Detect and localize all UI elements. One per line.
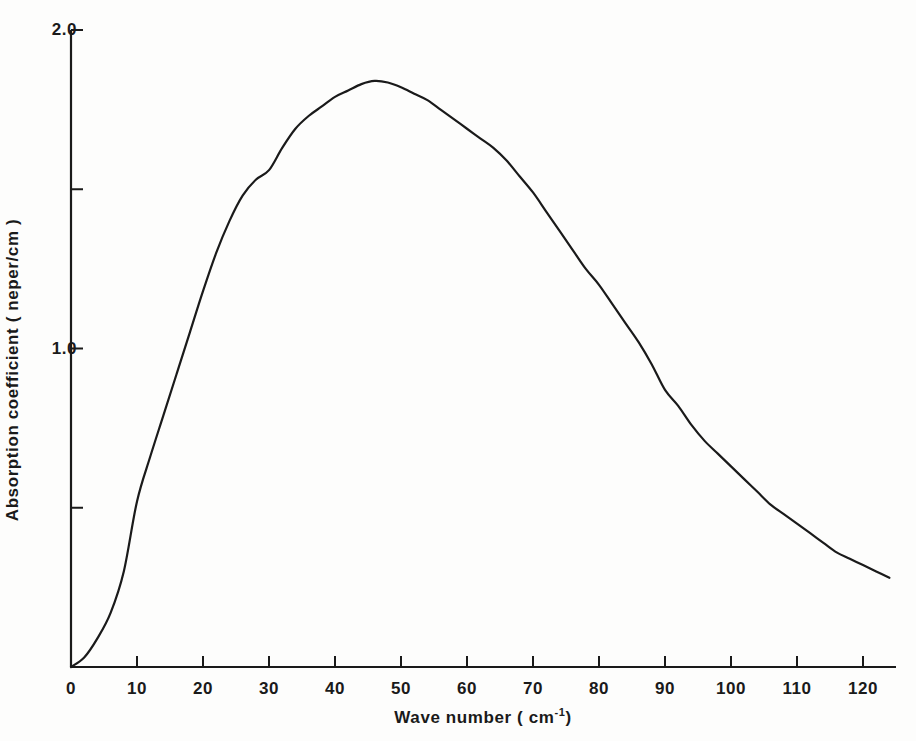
x-tick-label: 60 [457, 679, 477, 699]
absorption-spectrum-figure: 0102030405060708090100110120 1.02.0 Wave… [0, 0, 916, 741]
x-tick-label: 0 [66, 679, 76, 699]
y-axis-ticks [71, 30, 83, 508]
y-tick-label: 2.0 [52, 20, 77, 40]
x-axis-title: Wave number ( cm-1) [394, 706, 571, 728]
x-tick-label: 50 [391, 679, 411, 699]
x-tick-label: 100 [716, 679, 746, 699]
x-axis-title-superscript: -1 [554, 706, 565, 718]
x-tick-label: 10 [127, 679, 147, 699]
absorption-curve [71, 81, 889, 667]
x-axis-ticks [71, 656, 863, 667]
x-tick-label: 40 [325, 679, 345, 699]
x-tick-label: 120 [848, 679, 878, 699]
x-axis-title-base: Wave number ( cm [394, 708, 554, 727]
x-tick-label: 30 [259, 679, 279, 699]
plot-area [0, 0, 916, 741]
axes [71, 30, 896, 667]
x-tick-label: 90 [655, 679, 675, 699]
x-tick-label: 70 [523, 679, 543, 699]
x-tick-label: 80 [589, 679, 609, 699]
x-tick-label: 20 [193, 679, 213, 699]
y-axis-title: Absorption coefficient ( neper/cm ) [3, 219, 23, 521]
x-axis-title-close: ) [565, 708, 571, 727]
x-tick-label: 110 [783, 679, 812, 699]
y-tick-label: 1.0 [52, 339, 77, 359]
